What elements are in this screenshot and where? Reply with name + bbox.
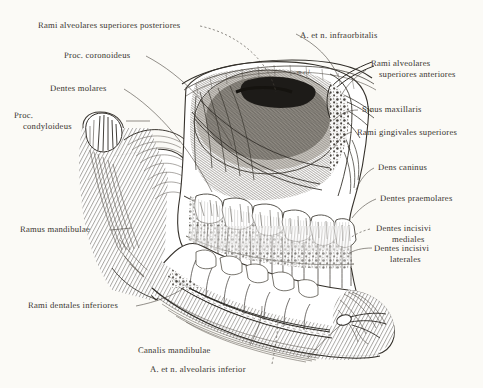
label-a-et-n-infraorbitalis: A. et n. infraorbitalis: [300, 30, 378, 41]
label-rami-alveolares-superiores-posteriores: Rami alveolares superiores posteriores: [38, 20, 180, 31]
label-rami-alveolares-superiores-anteriores: Rami alveolares superiores anteriores: [371, 58, 456, 79]
label-dentes-incisivi-laterales: Dentes incisivi laterales: [374, 243, 429, 264]
label-dentes-molares: Dentes molares: [50, 83, 107, 94]
label-dentes-incisivi-mediales: Dentes incisivi mediales: [376, 223, 431, 244]
label-proc-condyloideus-line1: Proc.: [14, 110, 33, 120]
label-dentes-incisivi-laterales-line2: laterales: [374, 254, 429, 265]
label-dentes-incisivi-laterales-line1: Dentes incisivi: [374, 243, 429, 253]
label-proc-coronoideus: Proc. coronoideus: [64, 50, 130, 61]
label-rami-gingivales-superiores: Rami gingivales superiores: [357, 127, 457, 138]
label-proc-condyloideus: Proc. condyloideus: [14, 110, 72, 131]
label-a-et-n-alveolaris-inferior: A. et n. alveolaris inferior: [150, 364, 246, 375]
label-proc-condyloideus-line2: condyloideus: [14, 121, 72, 132]
label-ramus-mandibulae: Ramus mandibulae: [20, 224, 90, 235]
label-rami-dentales-inferiores: Rami dentales inferiores: [28, 300, 118, 311]
label-dens-caninus: Dens caninus: [378, 162, 427, 173]
label-inline-mcl: m.c.l.: [297, 68, 312, 79]
label-rami-alv-sup-ant-line1: Rami alveolares: [371, 58, 430, 68]
label-sinus-maxillaris: Sinus maxillaris: [362, 104, 422, 115]
label-canalis-mandibulae: Canalis mandibulae: [138, 345, 211, 356]
label-dentes-praemolares: Dentes praemolares: [380, 193, 453, 204]
label-dentes-incisivi-mediales-line1: Dentes incisivi: [376, 223, 431, 233]
anatomical-plate: Rami alveolares superiores posteriores P…: [0, 0, 483, 388]
label-rami-alv-sup-ant-line2: superiores anteriores: [371, 69, 456, 80]
